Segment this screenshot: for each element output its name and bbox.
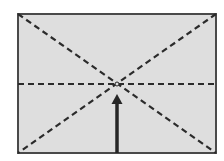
- diagram-canvas: [0, 0, 224, 161]
- center-point: [115, 82, 119, 86]
